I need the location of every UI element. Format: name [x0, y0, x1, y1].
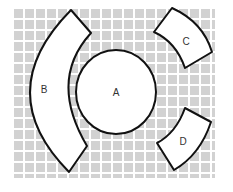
label-c: C — [182, 36, 189, 47]
label-b: B — [41, 84, 48, 95]
label-d: D — [179, 136, 186, 147]
seating-diagram: A B C D — [0, 0, 233, 192]
label-a: A — [113, 87, 120, 98]
